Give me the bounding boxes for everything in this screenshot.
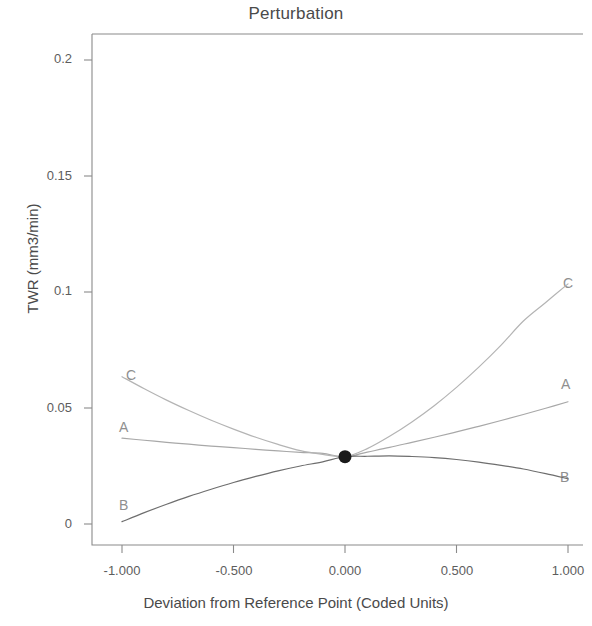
reference-point-marker bbox=[339, 450, 352, 463]
series-curve-b bbox=[122, 456, 568, 522]
plot-area bbox=[0, 0, 592, 626]
plot-frame bbox=[92, 34, 583, 545]
series-curve-c bbox=[122, 284, 568, 457]
perturbation-chart: Perturbation TWR (mm3/min) Deviation fro… bbox=[0, 0, 592, 626]
